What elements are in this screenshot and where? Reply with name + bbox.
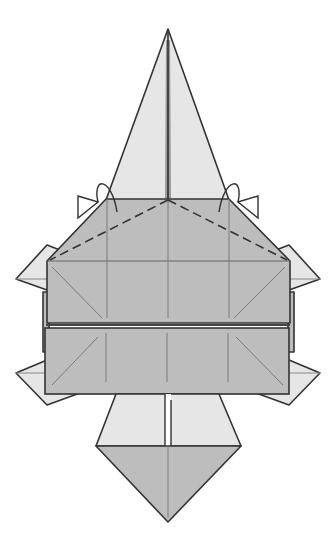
upper-panel — [47, 199, 290, 323]
bottom-point — [96, 394, 241, 522]
origami-diagram — [0, 0, 336, 556]
top-point — [106, 29, 229, 200]
lower-panel — [45, 325, 290, 394]
